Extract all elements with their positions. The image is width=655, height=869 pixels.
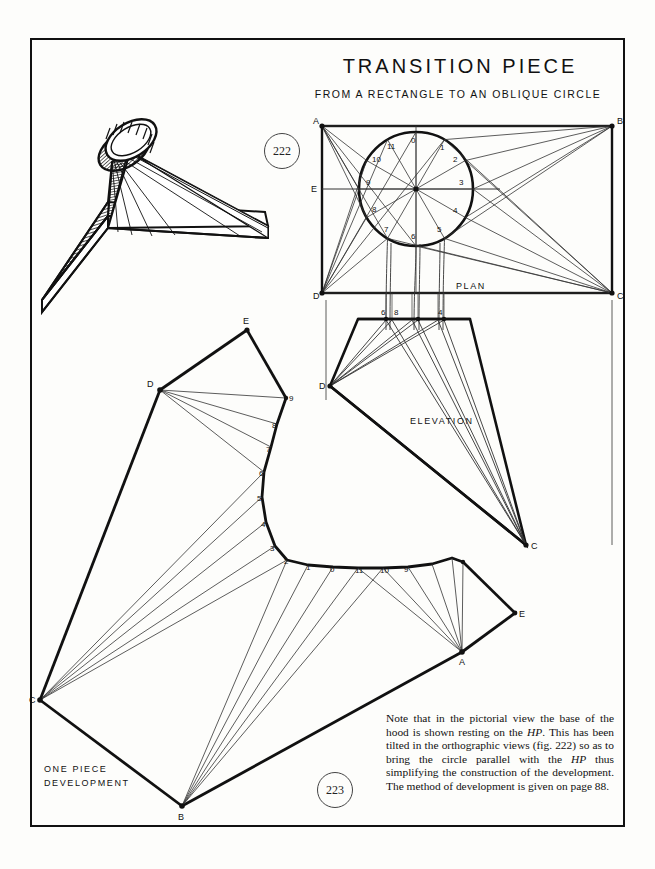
plan-point-3: 3 <box>459 178 464 187</box>
elevation-label-4: 4 <box>438 308 443 317</box>
development-label-E-right: E <box>519 609 525 619</box>
development-point-0: 0 <box>330 565 335 574</box>
plan-label-A: A <box>313 116 319 126</box>
elevation-label-6: 6 <box>381 308 386 317</box>
development-point-9-right: 9 <box>404 565 409 574</box>
development-point-2: 2 <box>284 557 289 566</box>
plan-point-4: 4 <box>453 206 458 215</box>
plan-point-6: 6 <box>411 232 416 241</box>
development-point-7: 7 <box>266 445 271 454</box>
development-point-9-top: 9 <box>289 394 294 403</box>
development-label-A: A <box>459 657 465 667</box>
development-label-E-top: E <box>243 316 249 326</box>
development-label-D: D <box>147 379 154 389</box>
elevation-label-8: 8 <box>394 308 399 317</box>
plan-point-10: 10 <box>372 155 381 164</box>
plan-point-2: 2 <box>453 155 458 164</box>
development-label-C: C <box>29 695 36 705</box>
plan-point-1: 1 <box>440 143 445 152</box>
plan-point-0: 0 <box>411 136 416 145</box>
pictorial-hood-view <box>42 111 268 312</box>
elevation-view: D C 6 8 4 <box>319 300 612 551</box>
development-point-10: 10 <box>380 566 389 575</box>
plan-point-8: 8 <box>372 205 377 214</box>
technical-drawing-canvas: A B C D E 0 1 2 3 4 5 6 7 8 9 10 11 <box>0 0 655 869</box>
plan-point-5: 5 <box>437 225 442 234</box>
plan-label-D: D <box>313 291 320 301</box>
elevation-label-C: C <box>531 541 538 551</box>
plan-label-B: B <box>617 116 623 126</box>
development-point-5: 5 <box>257 494 262 503</box>
development-point-11: 11 <box>355 566 364 575</box>
plan-point-7: 7 <box>384 225 389 234</box>
plan-point-9: 9 <box>366 178 371 187</box>
development-view: E D C B A E 9 8 7 6 5 4 3 2 1 0 11 10 9 <box>29 316 525 822</box>
development-point-8: 8 <box>272 421 277 430</box>
plan-view: A B C D E 0 1 2 3 4 5 6 7 8 9 10 11 <box>311 116 624 330</box>
development-point-6: 6 <box>259 469 264 478</box>
development-point-3: 3 <box>270 544 275 553</box>
development-label-B: B <box>178 812 184 822</box>
plan-label-C: C <box>617 291 624 301</box>
elevation-label-D: D <box>319 381 326 391</box>
drawing-sheet: TRANSITION PIECE FROM A RECTANGLE TO AN … <box>0 0 655 869</box>
development-point-1: 1 <box>306 563 311 572</box>
development-point-4: 4 <box>261 520 266 529</box>
plan-point-11: 11 <box>387 142 396 151</box>
plan-label-E: E <box>311 184 317 194</box>
